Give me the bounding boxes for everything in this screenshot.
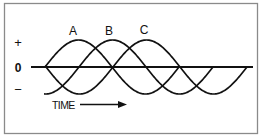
wave-a-label: A (69, 24, 77, 38)
wave-c-label: C (140, 23, 149, 37)
wave-b-label: B (105, 24, 113, 38)
diagram-frame: + 0 − A B C TIME (0, 0, 261, 138)
zero-label: 0 (15, 61, 22, 75)
phase-shift-diagram: + 0 − A B C TIME (0, 0, 261, 138)
time-label: TIME (52, 99, 75, 111)
plus-label: + (14, 35, 22, 50)
minus-label: − (14, 82, 22, 97)
right-arrow-icon (80, 101, 127, 108)
figure-border (5, 4, 258, 134)
